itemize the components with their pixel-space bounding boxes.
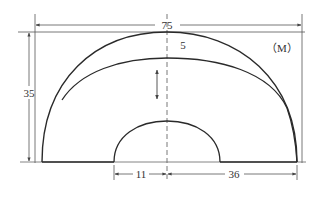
unit-label: （M）	[266, 42, 298, 54]
inner-radius-label: 11	[136, 168, 147, 180]
outer-arc	[42, 32, 297, 162]
semicircular-arch-diagram: 75 35 5 （M） 11 36	[0, 0, 320, 198]
band-thickness-label: 5	[180, 39, 186, 51]
outer-span-label: 36	[229, 168, 241, 180]
height-label: 35	[24, 87, 36, 99]
inner-band-arc	[62, 58, 297, 162]
